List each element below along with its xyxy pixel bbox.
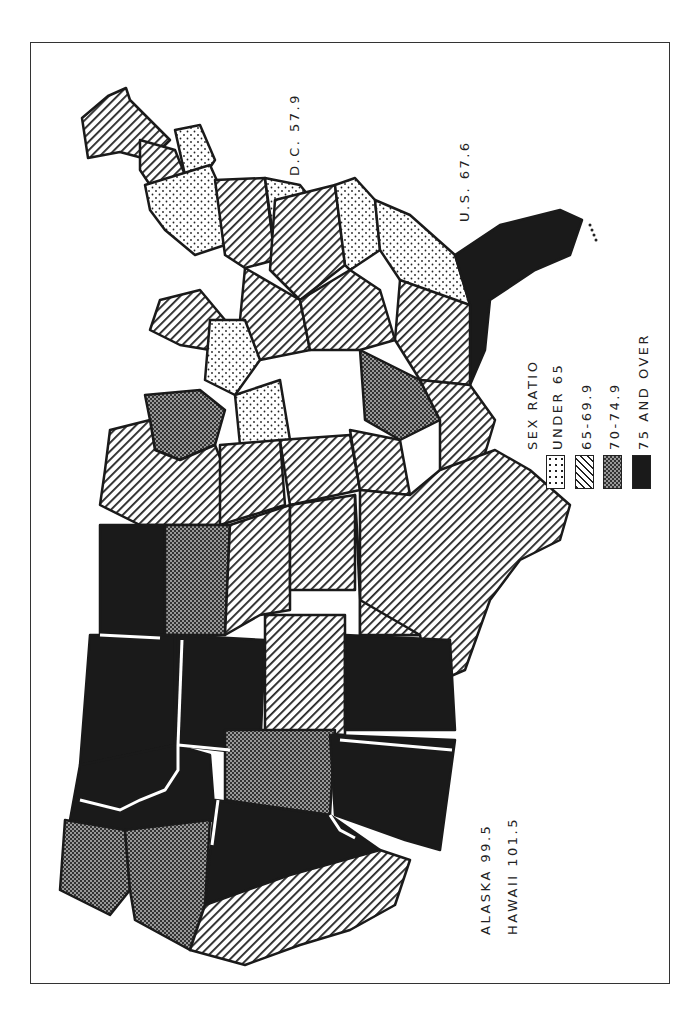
legend-title: SEX RATIO — [525, 360, 540, 450]
state-kansas — [290, 495, 355, 590]
state-illinois — [235, 380, 290, 445]
legend-label-65-69: 65-69.9 — [579, 382, 594, 450]
legend-swatch-70-74 — [603, 455, 622, 489]
state-south-dakota — [165, 525, 230, 635]
legend-label-75-over: 75 AND OVER — [636, 333, 651, 450]
state-washington — [60, 820, 130, 915]
alaska-annotation: ALASKA 99.5 — [478, 824, 493, 935]
state-florida — [455, 210, 582, 385]
legend-swatch-75-over — [632, 455, 651, 489]
state-colorado — [265, 615, 345, 735]
legend-swatch-65-69 — [575, 455, 594, 489]
legend-swatch-under-65 — [546, 455, 565, 489]
state-missouri — [280, 435, 360, 505]
state-montana — [80, 635, 175, 765]
hawaii-annotation: HAWAII 101.5 — [505, 817, 520, 935]
us-annotation: U.S. 67.6 — [457, 140, 472, 222]
state-arkansas — [350, 430, 410, 495]
state-north-dakota — [100, 525, 165, 635]
legend-label-70-74: 70-74.9 — [607, 382, 622, 450]
dc-annotation: D.C. 57.9 — [287, 93, 302, 176]
us-choropleth-map — [0, 0, 695, 1012]
legend-label-under-65: UNDER 65 — [550, 363, 565, 450]
state-new-mexico — [345, 635, 455, 730]
